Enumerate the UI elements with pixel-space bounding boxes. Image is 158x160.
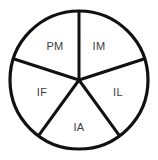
pie-chart-svg: IM IL IA IF PM [0,0,158,160]
pie-label-il: IL [113,86,123,98]
pie-label-ia: IA [74,121,85,133]
pie-label-im: IM [93,40,106,52]
pie-label-if: IF [37,86,47,98]
pie-label-pm: PM [46,40,63,52]
pie-diagram: IM IL IA IF PM [0,0,158,160]
